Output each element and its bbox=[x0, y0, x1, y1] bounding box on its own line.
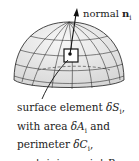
normal-text: normal bbox=[83, 8, 119, 19]
caption-line-1: surface element δSi, bbox=[17, 101, 139, 120]
normal-subscript: i bbox=[129, 14, 131, 22]
arrowhead-icon bbox=[74, 8, 80, 17]
caption-line-3: perimeter δCi, bbox=[17, 138, 139, 157]
caption-line-2: with area δAi and bbox=[17, 120, 139, 139]
caption: surface element δSi, with area δAi and p… bbox=[17, 101, 139, 161]
normal-label: normal ni bbox=[83, 8, 132, 22]
caption-line-4: containing point Pi bbox=[17, 157, 139, 161]
